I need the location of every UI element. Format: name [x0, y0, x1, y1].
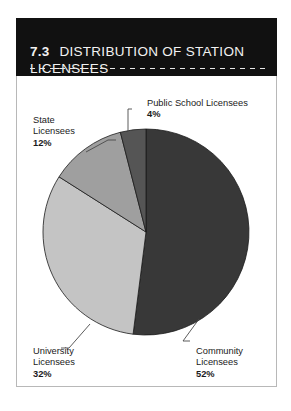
figure-title-text: DISTRIBUTION OF STATION LICENSEES	[30, 44, 244, 76]
label-community: Community Licensees 52%	[196, 334, 243, 392]
label-public-school: Public School Licensees 4%	[147, 86, 248, 132]
pie-chart-area: Public School Licensees 4% State License…	[16, 76, 277, 387]
pie-slice-community[interactable]	[133, 129, 249, 335]
leader-line-public-school	[128, 109, 132, 131]
label-public-school-value: 4%	[147, 109, 248, 121]
figure-number: 7.3	[30, 44, 49, 59]
label-public-school-name: Public School Licensees	[147, 98, 248, 108]
label-university-name: University Licensees	[33, 346, 75, 368]
label-state-name: State Licensees	[33, 115, 75, 137]
header-dashed-rule	[30, 68, 265, 69]
label-community-name: Community Licensees	[196, 346, 243, 368]
label-university: University Licensees 32%	[33, 334, 75, 392]
label-state-value: 12%	[33, 138, 75, 150]
label-state: State Licensees 12%	[33, 103, 75, 161]
figure-header-band: 7.3DISTRIBUTION OF STATION LICENSEES	[16, 18, 277, 76]
label-community-value: 52%	[196, 369, 243, 381]
label-university-value: 32%	[33, 369, 75, 381]
